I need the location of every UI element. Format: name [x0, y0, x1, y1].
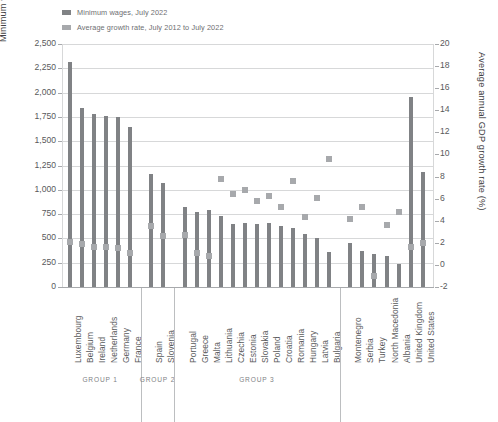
gridline	[62, 93, 434, 94]
y-axis-right-tick-label: 10	[440, 148, 470, 158]
y-axis-left-tick-label: 1,250	[2, 160, 56, 170]
x-axis-category-label: Spain	[154, 341, 164, 363]
x-axis-category-label: Slovakia	[260, 331, 270, 363]
bar-minimum-wage	[116, 117, 120, 287]
y-axis-left-tickmark	[58, 44, 62, 45]
marker-growth-rate	[396, 209, 402, 215]
marker-growth-rate	[266, 193, 272, 199]
x-axis-category-label: United States	[426, 311, 436, 363]
marker-growth-rate	[160, 233, 166, 239]
y-axis-right-tickmark	[435, 243, 439, 244]
group-label: GROUP 1	[70, 376, 130, 383]
bar-minimum-wage	[104, 116, 108, 287]
group-separator	[174, 288, 175, 422]
y-axis-left-tick-label: 0	[2, 281, 56, 291]
y-axis-right-tickmark	[435, 221, 439, 222]
x-axis-category-label: Montenegro	[353, 317, 363, 363]
x-axis-category-label: Lithuania	[224, 328, 234, 363]
y-axis-left-tickmark	[58, 263, 62, 264]
y-axis-left-tick-label: 1,750	[2, 111, 56, 121]
y-axis-left-tick-label: 250	[2, 257, 56, 267]
x-axis-category-label: Hungary	[308, 331, 318, 363]
bar-minimum-wage	[243, 223, 247, 287]
x-axis-category-label: Czechia	[236, 332, 246, 363]
plot-area: 02505007501,0001,2501,5001,7502,0002,250…	[62, 44, 434, 287]
x-axis-category-labels: LuxembourgBelgiumIrelandNetherlandsGerma…	[62, 289, 434, 367]
y-axis-left-tick-label: 1,500	[2, 135, 56, 145]
x-axis-baseline	[62, 287, 434, 288]
marker-growth-rate	[206, 253, 212, 259]
marker-growth-rate	[420, 240, 426, 246]
bar-minimum-wage	[279, 226, 283, 287]
gridline	[62, 68, 434, 69]
x-axis-category-label: Portugal	[188, 331, 198, 363]
bar-minimum-wage	[231, 224, 235, 287]
legend-label-minimum-wages: Minimum wages, July 2022	[77, 8, 167, 17]
legend-swatch-minimum-wages	[62, 10, 71, 15]
y-axis-right-tick-label: 8	[440, 171, 470, 181]
y-axis-right-tickmark	[435, 110, 439, 111]
x-axis-category-label: Albania	[402, 334, 412, 363]
bar-minimum-wage	[80, 108, 84, 287]
y-axis-right-tickmark	[435, 88, 439, 89]
y-axis-right-tickmark	[435, 265, 439, 266]
y-axis-right-tick-label: 4	[440, 215, 470, 225]
y-axis-left-tickmark	[58, 238, 62, 239]
y-axis-right-tick-label: 16	[440, 82, 470, 92]
marker-growth-rate	[115, 245, 121, 251]
y-axis-left-title: Minimum wages (€ per month)	[0, 0, 8, 42]
legend-item-minimum-wages: Minimum wages, July 2022	[62, 6, 224, 19]
marker-growth-rate	[326, 156, 332, 162]
y-axis-left-tick-label: 1,000	[2, 184, 56, 194]
y-axis-right-tick-label: 12	[440, 126, 470, 136]
chart-legend: Minimum wages, July 2022 Average growth …	[62, 6, 224, 36]
bar-minimum-wage	[128, 127, 132, 287]
y-axis-left-tick-label: 750	[2, 208, 56, 218]
marker-growth-rate	[148, 223, 154, 229]
y-axis-left-tickmark	[58, 68, 62, 69]
x-axis-category-label: Luxembourg	[73, 315, 83, 363]
x-axis-category-label: Croatia	[284, 335, 294, 363]
legend-swatch-growth-rate	[62, 25, 71, 30]
y-axis-left-tickmark	[58, 190, 62, 191]
y-axis-right-tickmark	[435, 287, 439, 288]
y-axis-right-tick-label: -2	[440, 281, 470, 291]
y-axis-left-tickmark	[58, 166, 62, 167]
bar-minimum-wage	[409, 97, 413, 287]
y-axis-right-tick-label: 14	[440, 104, 470, 114]
bar-minimum-wage	[303, 234, 307, 287]
x-axis-category-label: Romania	[296, 329, 306, 363]
y-axis-right-tick-label: 18	[440, 60, 470, 70]
bar-minimum-wage	[315, 238, 319, 287]
x-axis-category-label: North Macedonia	[390, 298, 400, 363]
x-axis-category-label: Netherlands	[109, 317, 119, 363]
marker-growth-rate	[290, 178, 296, 184]
marker-growth-rate	[254, 198, 260, 204]
x-axis-category-label: Serbia	[365, 338, 375, 363]
y-axis-right-tick-label: 20	[440, 38, 470, 48]
bar-minimum-wage	[92, 114, 96, 287]
marker-growth-rate	[384, 222, 390, 228]
y-axis-right-tickmark	[435, 199, 439, 200]
marker-growth-rate	[359, 204, 365, 210]
marker-growth-rate	[230, 191, 236, 197]
group-separator	[141, 288, 142, 422]
x-axis-category-label: Turkey	[377, 337, 387, 363]
group-label: GROUP 2	[127, 376, 187, 383]
x-axis-category-label: Latvia	[320, 340, 330, 363]
marker-growth-rate	[67, 239, 73, 245]
y-axis-left-tickmark	[58, 141, 62, 142]
y-axis-right-tick-label: 0	[440, 259, 470, 269]
bar-minimum-wage	[372, 254, 376, 287]
marker-growth-rate	[302, 214, 308, 220]
x-axis-category-label: Germany	[121, 328, 131, 363]
x-axis-category-label: Greece	[200, 335, 210, 363]
y-axis-right-tick-label: 2	[440, 237, 470, 247]
group-label: GROUP 3	[227, 376, 287, 383]
marker-growth-rate	[79, 241, 85, 247]
marker-growth-rate	[218, 176, 224, 182]
bar-minimum-wage	[68, 62, 72, 287]
bar-minimum-wage	[291, 228, 295, 287]
bar-minimum-wage	[267, 223, 271, 287]
